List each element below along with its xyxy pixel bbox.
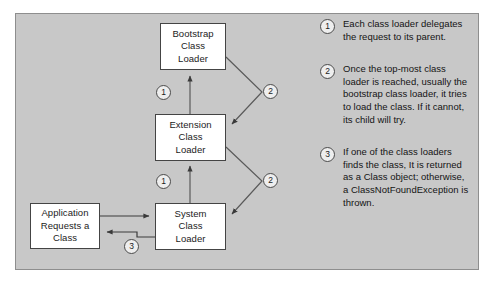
- node-system-line-3: Loader: [176, 233, 206, 246]
- legend-item-2: 2 Once the top-most class loader is reac…: [320, 63, 472, 126]
- legend-marker-3: 3: [320, 147, 335, 162]
- legend-marker-1: 1: [320, 19, 335, 34]
- node-extension-line-1: Extension: [169, 119, 211, 132]
- legend-text-3: If one of the class loaders finds the cl…: [343, 146, 472, 209]
- legend-text-1: Each class loader delegates the request …: [343, 18, 472, 43]
- node-application-line-3: Class: [53, 232, 77, 245]
- node-system-line-1: System: [175, 208, 207, 221]
- node-bootstrap-line-3: Loader: [178, 53, 208, 66]
- node-application-line-1: Application: [41, 207, 88, 220]
- legend-marker-2: 2: [320, 64, 335, 79]
- legend-item-3: 3 If one of the class loaders finds the …: [320, 146, 472, 209]
- edge-marker-1-extension-to-bootstrap: 1: [156, 174, 171, 189]
- node-bootstrap-class-loader[interactable]: Bootstrap Class Loader: [160, 23, 226, 70]
- legend-text-2: Once the top-most class loader is reache…: [343, 63, 472, 126]
- node-bootstrap-line-1: Bootstrap: [172, 28, 213, 41]
- node-application-requests-class[interactable]: Application Requests a Class: [30, 203, 100, 249]
- node-extension-line-2: Class: [178, 131, 202, 144]
- legend-list: 1 Each class loader delegates the reques…: [320, 18, 472, 199]
- edge-marker-2-extension-to-system: 2: [263, 173, 278, 188]
- node-extension-class-loader[interactable]: Extension Class Loader: [155, 114, 226, 161]
- edge-marker-2-bootstrap-to-extension: 2: [263, 84, 278, 99]
- node-bootstrap-line-2: Class: [181, 40, 205, 53]
- edge-marker-3-system-to-application: 3: [124, 239, 139, 254]
- edge-marker-1-system-to-extension: 1: [156, 85, 171, 100]
- legend-item-1: 1 Each class loader delegates the reques…: [320, 18, 472, 43]
- node-system-line-2: Class: [178, 220, 202, 233]
- node-application-line-2: Requests a: [41, 220, 90, 233]
- node-system-class-loader[interactable]: System Class Loader: [155, 203, 226, 250]
- diagram-root: Bootstrap Class Loader Extension Class L…: [0, 0, 496, 286]
- node-extension-line-3: Loader: [176, 144, 206, 157]
